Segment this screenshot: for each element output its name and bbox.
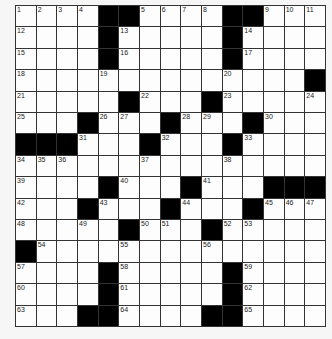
- grid-cell[interactable]: [57, 199, 77, 219]
- grid-cell[interactable]: [243, 241, 263, 261]
- grid-cell[interactable]: [285, 241, 305, 261]
- grid-cell[interactable]: [305, 134, 325, 154]
- grid-cell[interactable]: 48: [16, 220, 36, 240]
- grid-cell[interactable]: [305, 306, 325, 326]
- grid-cell[interactable]: [37, 284, 57, 304]
- grid-cell[interactable]: 64: [119, 306, 139, 326]
- grid-cell[interactable]: 58: [119, 263, 139, 283]
- grid-cell[interactable]: [181, 220, 201, 240]
- grid-cell[interactable]: [181, 156, 201, 176]
- grid-cell[interactable]: [181, 306, 201, 326]
- grid-cell[interactable]: [57, 27, 77, 47]
- grid-cell[interactable]: [37, 49, 57, 69]
- grid-cell[interactable]: [243, 92, 263, 112]
- grid-cell[interactable]: [37, 220, 57, 240]
- grid-cell[interactable]: [99, 156, 119, 176]
- grid-cell[interactable]: [140, 284, 160, 304]
- grid-cell[interactable]: 60: [16, 284, 36, 304]
- grid-cell[interactable]: 22: [140, 92, 160, 112]
- grid-cell[interactable]: 41: [202, 177, 222, 197]
- grid-cell[interactable]: 54: [37, 241, 57, 261]
- grid-cell[interactable]: [161, 49, 181, 69]
- grid-cell[interactable]: [202, 134, 222, 154]
- grid-cell[interactable]: [37, 177, 57, 197]
- grid-cell[interactable]: 24: [305, 92, 325, 112]
- grid-cell[interactable]: [223, 241, 243, 261]
- grid-cell[interactable]: 21: [16, 92, 36, 112]
- grid-cell[interactable]: 10: [285, 6, 305, 26]
- grid-cell[interactable]: [285, 49, 305, 69]
- grid-cell[interactable]: [264, 263, 284, 283]
- grid-cell[interactable]: [78, 92, 98, 112]
- grid-cell[interactable]: [264, 134, 284, 154]
- grid-cell[interactable]: 39: [16, 177, 36, 197]
- grid-cell[interactable]: 47: [305, 199, 325, 219]
- grid-cell[interactable]: [223, 199, 243, 219]
- grid-cell[interactable]: 30: [264, 113, 284, 133]
- grid-cell[interactable]: [305, 263, 325, 283]
- grid-cell[interactable]: [161, 156, 181, 176]
- grid-cell[interactable]: 18: [16, 70, 36, 90]
- grid-cell[interactable]: [223, 113, 243, 133]
- grid-cell[interactable]: [305, 220, 325, 240]
- grid-cell[interactable]: [223, 177, 243, 197]
- grid-cell[interactable]: [161, 241, 181, 261]
- grid-cell[interactable]: [285, 306, 305, 326]
- grid-cell[interactable]: 37: [140, 156, 160, 176]
- grid-cell[interactable]: [37, 306, 57, 326]
- grid-cell[interactable]: [37, 70, 57, 90]
- grid-cell[interactable]: 38: [223, 156, 243, 176]
- grid-cell[interactable]: 65: [243, 306, 263, 326]
- grid-cell[interactable]: [264, 220, 284, 240]
- grid-cell[interactable]: [78, 241, 98, 261]
- grid-cell[interactable]: [57, 306, 77, 326]
- grid-cell[interactable]: 27: [119, 113, 139, 133]
- grid-cell[interactable]: [78, 49, 98, 69]
- grid-cell[interactable]: 36: [57, 156, 77, 176]
- grid-cell[interactable]: 2: [37, 6, 57, 26]
- grid-cell[interactable]: [37, 27, 57, 47]
- grid-cell[interactable]: [57, 70, 77, 90]
- grid-cell[interactable]: [181, 27, 201, 47]
- grid-cell[interactable]: [181, 70, 201, 90]
- grid-cell[interactable]: 51: [161, 220, 181, 240]
- grid-cell[interactable]: [264, 92, 284, 112]
- grid-cell[interactable]: [202, 70, 222, 90]
- grid-cell[interactable]: [57, 92, 77, 112]
- grid-cell[interactable]: [99, 134, 119, 154]
- grid-cell[interactable]: 4: [78, 6, 98, 26]
- grid-cell[interactable]: 17: [243, 49, 263, 69]
- grid-cell[interactable]: [285, 134, 305, 154]
- grid-cell[interactable]: 62: [243, 284, 263, 304]
- grid-cell[interactable]: [305, 156, 325, 176]
- grid-cell[interactable]: [99, 92, 119, 112]
- grid-cell[interactable]: [285, 156, 305, 176]
- grid-cell[interactable]: [161, 70, 181, 90]
- grid-cell[interactable]: 53: [243, 220, 263, 240]
- grid-cell[interactable]: 6: [161, 6, 181, 26]
- grid-cell[interactable]: [140, 263, 160, 283]
- grid-cell[interactable]: 13: [119, 27, 139, 47]
- grid-cell[interactable]: [57, 177, 77, 197]
- grid-cell[interactable]: [243, 177, 263, 197]
- grid-cell[interactable]: [57, 284, 77, 304]
- grid-cell[interactable]: 55: [119, 241, 139, 261]
- grid-cell[interactable]: [264, 49, 284, 69]
- grid-cell[interactable]: 63: [16, 306, 36, 326]
- grid-cell[interactable]: 45: [264, 199, 284, 219]
- grid-cell[interactable]: 20: [223, 70, 243, 90]
- grid-cell[interactable]: [140, 306, 160, 326]
- grid-cell[interactable]: [243, 70, 263, 90]
- grid-cell[interactable]: [119, 199, 139, 219]
- grid-cell[interactable]: [78, 177, 98, 197]
- grid-cell[interactable]: [264, 70, 284, 90]
- grid-cell[interactable]: 1: [16, 6, 36, 26]
- grid-cell[interactable]: 7: [181, 6, 201, 26]
- grid-cell[interactable]: 43: [99, 199, 119, 219]
- grid-cell[interactable]: 26: [99, 113, 119, 133]
- grid-cell[interactable]: 28: [181, 113, 201, 133]
- grid-cell[interactable]: 12: [16, 27, 36, 47]
- grid-cell[interactable]: [181, 49, 201, 69]
- grid-cell[interactable]: [161, 263, 181, 283]
- grid-cell[interactable]: [285, 220, 305, 240]
